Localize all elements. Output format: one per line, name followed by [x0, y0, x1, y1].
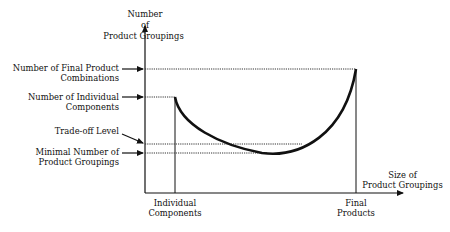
xlabel-final-products: Final Products [331, 198, 381, 218]
y-axis-title-line2: of [90, 20, 200, 31]
xlabel-individual-components-line2: Components [140, 208, 210, 218]
label-minimal: Minimal Number of Product Groupings [0, 147, 119, 167]
xlabel-final-products-line1: Final [331, 198, 381, 208]
y-axis-title-line1: Number [90, 9, 200, 20]
label-tradeoff: Trade-off Level [0, 126, 119, 136]
label-final-combinations-line1: Number of Final Product [0, 63, 119, 73]
diagram-canvas [0, 0, 450, 232]
arrow-tradeoff [122, 134, 143, 143]
label-individual-components-line1: Number of Individual [0, 92, 119, 102]
y-axis-title: Number of Product Groupings [90, 9, 200, 42]
label-minimal-line1: Minimal Number of [0, 147, 119, 157]
x-axis-title-line1: Size of [355, 170, 450, 180]
groupings-curve [175, 69, 356, 154]
label-minimal-line2: Product Groupings [0, 157, 119, 167]
xlabel-final-products-line2: Products [331, 208, 381, 218]
y-axis-title-line3: Product Groupings [87, 31, 200, 42]
label-tradeoff-line1: Trade-off Level [0, 126, 119, 136]
xlabel-individual-components: Individual Components [140, 198, 210, 218]
label-individual-components: Number of Individual Components [0, 92, 119, 112]
xlabel-individual-components-line1: Individual [140, 198, 210, 208]
label-individual-components-line2: Components [0, 102, 119, 112]
label-final-combinations-line2: Combinations [0, 73, 119, 83]
x-axis-title-line2: Product Groupings [355, 180, 450, 190]
x-axis-title: Size of Product Groupings [355, 170, 450, 190]
label-final-combinations: Number of Final Product Combinations [0, 63, 119, 83]
